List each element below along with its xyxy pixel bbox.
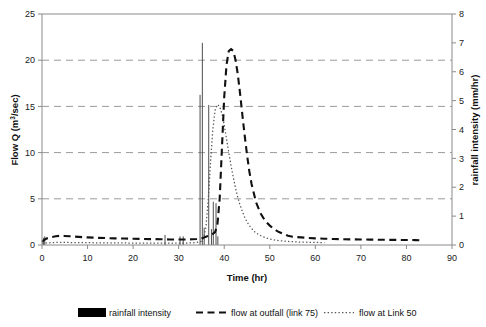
legend-label-flow-at-link-50: flow at Link 50 (359, 308, 417, 318)
y2-tick-label: 5 (459, 96, 464, 106)
x-axis-ticks: 0102030405060708090 (39, 245, 457, 263)
x-axis-title: Time (hr) (227, 272, 267, 283)
y-axis-right-title: rainfall intensity (mm/hr) (469, 75, 480, 186)
x-tick-label: 10 (83, 253, 93, 263)
y2-tick-label: 3 (459, 154, 464, 164)
legend-label-flow-at-outfall: flow at outfall (link 75) (231, 308, 318, 318)
chart-svg: 0510152025 012345678 0102030405060708090… (0, 0, 486, 327)
y-axis-left-ticks: 0510152025 (25, 9, 42, 250)
x-tick-label: 70 (356, 253, 366, 263)
y2-tick-label: 6 (459, 67, 464, 77)
y2-tick-label: 8 (459, 9, 464, 19)
x-tick-label: 60 (310, 253, 320, 263)
x-tick-label: 90 (447, 253, 457, 263)
x-tick-label: 50 (265, 253, 275, 263)
chart-legend: rainfall intensity flow at outfall (link… (78, 308, 417, 318)
x-tick-label: 30 (174, 253, 184, 263)
y-tick-label: 25 (25, 9, 35, 19)
y-tick-label: 10 (25, 148, 35, 158)
y2-tick-label: 2 (459, 182, 464, 192)
legend-label-rainfall-intensity: rainfall intensity (109, 308, 172, 318)
x-tick-label: 40 (219, 253, 229, 263)
y2-tick-label: 1 (459, 211, 464, 221)
x-tick-label: 80 (401, 253, 411, 263)
x-tick-label: 20 (128, 253, 138, 263)
y2-tick-label: 4 (459, 125, 464, 135)
y-tick-label: 15 (25, 102, 35, 112)
y-tick-label: 5 (30, 194, 35, 204)
y-tick-label: 0 (30, 240, 35, 250)
y-axis-right-ticks: 012345678 (452, 9, 464, 250)
y2-tick-label: 0 (459, 240, 464, 250)
plot-area (42, 14, 452, 245)
legend-swatch-rainfall-intensity (78, 308, 106, 317)
y-axis-left-title: Flow Q (m3/sec) (9, 94, 21, 165)
chart-figure: 0510152025 012345678 0102030405060708090… (0, 0, 486, 327)
y-tick-label: 20 (25, 55, 35, 65)
y2-tick-label: 7 (459, 38, 464, 48)
x-tick-label: 0 (39, 253, 44, 263)
